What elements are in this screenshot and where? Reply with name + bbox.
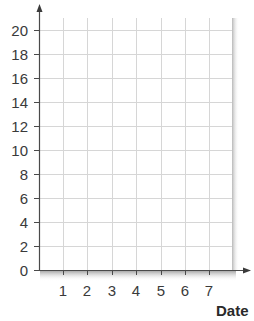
y-axis-arrow-icon (37, 4, 43, 12)
x-tick-label: 6 (175, 283, 195, 298)
x-tick-label: 2 (77, 283, 97, 298)
chart-plot-area (0, 0, 254, 321)
x-tick-label: 3 (102, 283, 122, 298)
horizontal-gridlines (39, 31, 232, 247)
y-tick-label: 0 (0, 263, 28, 278)
y-tick-label: 8 (0, 167, 28, 182)
right-shadow (232, 18, 239, 271)
x-tick-label: 5 (151, 283, 171, 298)
chart: 20 18 16 14 12 10 8 6 4 2 0 1 2 3 4 5 6 … (0, 0, 254, 321)
y-tick-label: 10 (0, 143, 28, 158)
x-tick-label: 7 (199, 283, 219, 298)
bottom-shadow (40, 271, 236, 281)
y-tick-label: 14 (0, 95, 28, 110)
y-tick-label: 20 (0, 23, 28, 38)
y-tick-label: 6 (0, 191, 28, 206)
vertical-gridlines (64, 18, 210, 270)
x-tick-label: 4 (126, 283, 146, 298)
y-tick-label: 18 (0, 47, 28, 62)
y-ticks (34, 31, 39, 271)
y-tick-label: 16 (0, 71, 28, 86)
x-axis-arrow-icon (243, 268, 251, 274)
y-tick-label: 2 (0, 239, 28, 254)
x-axis-title: Date (216, 302, 249, 319)
x-tick-label: 1 (53, 283, 73, 298)
y-tick-label: 4 (0, 215, 28, 230)
y-tick-label: 12 (0, 119, 28, 134)
